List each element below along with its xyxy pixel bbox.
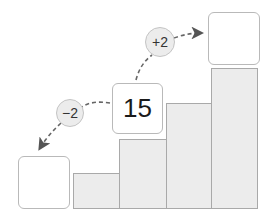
center-number: 15 <box>123 93 152 124</box>
dashed-line-to-plus <box>136 55 152 80</box>
center-number-box: 15 <box>112 83 163 134</box>
plus-step-circle: +2 <box>145 27 175 57</box>
left-answer-box[interactable] <box>18 156 70 209</box>
minus-step-label: −2 <box>62 105 78 121</box>
arrow-plus-to-right-box <box>174 33 201 38</box>
plus-step-label: +2 <box>152 34 168 50</box>
arrow-minus-to-left-box <box>40 123 61 148</box>
dashed-line-to-minus <box>82 102 110 107</box>
right-answer-box[interactable] <box>208 12 260 65</box>
minus-step-circle: −2 <box>56 99 84 127</box>
